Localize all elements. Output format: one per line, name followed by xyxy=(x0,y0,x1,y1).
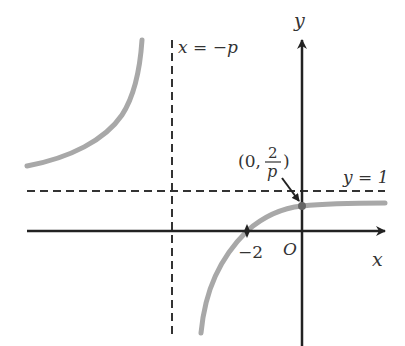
x-axis-label: x xyxy=(372,248,383,270)
hyperbola-graph: y x O x = −p y = 1 −2 (0, 2 p ) xyxy=(0,0,405,346)
y-axis-label: y xyxy=(293,9,305,31)
y-intercept-label: (0, 2 p ) xyxy=(238,144,290,181)
y-intercept-pointer-arrow xyxy=(282,178,299,201)
y-intercept-label-denominator: p xyxy=(267,162,277,181)
hyperbola-branch-lower-right xyxy=(201,203,385,333)
vertical-asymptote-label: x = −p xyxy=(178,37,238,57)
hyperbola-branch-upper-left xyxy=(27,40,142,166)
y-intercept-point xyxy=(298,202,306,210)
y-intercept-label-prefix: (0, xyxy=(238,151,261,171)
horizontal-asymptote-label: y = 1 xyxy=(342,167,388,187)
origin-label: O xyxy=(283,239,297,259)
x-intercept-label: −2 xyxy=(238,242,263,262)
y-intercept-label-suffix: ) xyxy=(283,151,290,171)
y-intercept-label-numerator: 2 xyxy=(268,144,278,162)
